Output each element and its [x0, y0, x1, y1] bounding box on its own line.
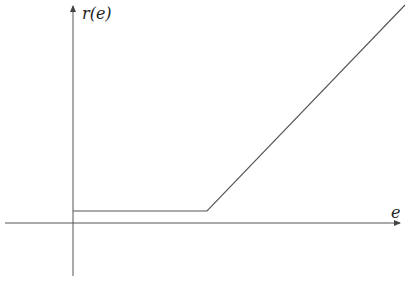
- y-axis-label: r(e): [82, 4, 112, 23]
- function-curve: [73, 5, 405, 211]
- x-axis-label-text: e: [391, 203, 400, 222]
- x-axis-label: e: [391, 203, 400, 222]
- y-axis-label-text: r(e): [82, 4, 112, 23]
- diagram-canvas: [0, 0, 407, 281]
